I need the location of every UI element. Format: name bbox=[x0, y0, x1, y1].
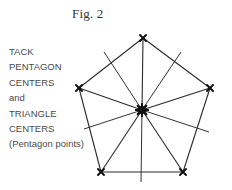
apothem-line bbox=[84, 110, 142, 129]
center-spokes bbox=[79, 38, 210, 172]
vertex-spoke bbox=[79, 88, 142, 110]
vertex-tack-icon bbox=[207, 85, 213, 91]
apothem-line bbox=[141, 110, 142, 182]
pentagon-diagram bbox=[0, 0, 232, 190]
pentagon-edge bbox=[143, 38, 210, 88]
center-tack-icon bbox=[136, 104, 148, 116]
vertex-spoke bbox=[142, 88, 210, 110]
vertex-spoke bbox=[142, 38, 143, 110]
pentagon-edge bbox=[79, 88, 101, 172]
pentagon-edge bbox=[183, 88, 210, 172]
apothem-line bbox=[142, 52, 181, 110]
vertex-spoke bbox=[101, 110, 142, 172]
apothem-line bbox=[104, 52, 142, 110]
vertex-spoke bbox=[142, 110, 183, 172]
pentagon-edges bbox=[79, 38, 210, 172]
